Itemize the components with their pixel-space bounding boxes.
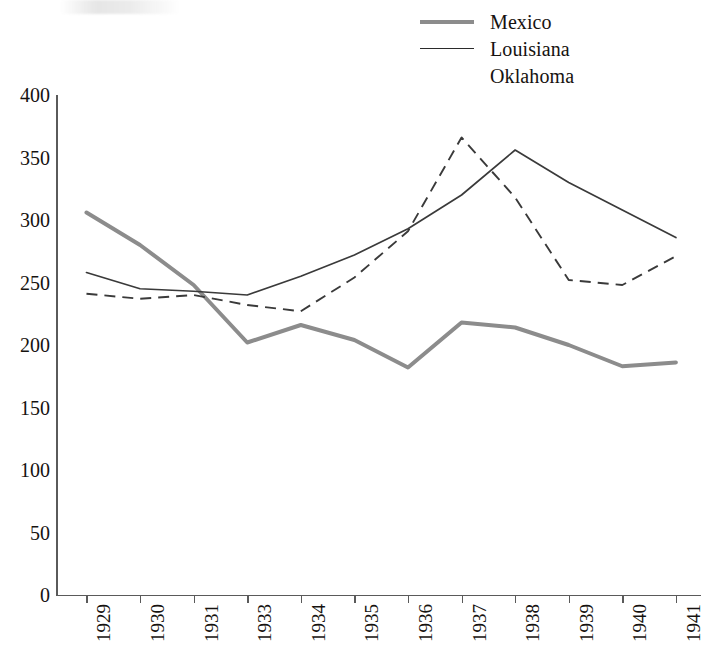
series-layer xyxy=(0,0,708,668)
series-line-oklahoma xyxy=(86,138,675,312)
line-chart: Mexico Louisiana Oklahoma 05010015020025… xyxy=(0,0,708,668)
plot-area: 050100150200250300350400 192919301931193… xyxy=(0,0,708,668)
